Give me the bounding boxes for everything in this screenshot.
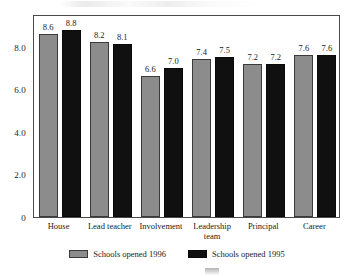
bar-1995[interactable]: 7.6 — [317, 55, 336, 217]
legend-label: Schools opened 1995 — [212, 250, 285, 259]
bar-1995[interactable]: 8.8 — [62, 30, 81, 217]
bar-group: 8.28.1 — [85, 16, 136, 217]
plot-inner: 8.68.88.28.16.67.07.47.57.27.27.67.6 — [34, 16, 339, 217]
bar-value-label: 7.6 — [322, 44, 333, 53]
bar-chart-figure: 02.04.06.08.0 8.68.88.28.16.67.07.47.57.… — [0, 0, 354, 277]
bar-pair: 7.47.5 — [188, 16, 239, 217]
bar-group: 6.67.0 — [136, 16, 187, 217]
bar-value-label: 8.2 — [94, 31, 105, 40]
plot-area: 8.68.88.28.16.67.07.47.57.27.27.67.6 — [33, 15, 340, 218]
black-swatch — [188, 250, 207, 258]
bar-value-label: 7.5 — [219, 46, 230, 55]
bar-value-label: 8.1 — [117, 33, 128, 42]
bar-pair: 7.27.2 — [239, 16, 290, 217]
bar-1995[interactable]: 8.1 — [113, 44, 132, 217]
x-axis-label: House — [33, 221, 84, 231]
bar-1996[interactable]: 7.4 — [192, 59, 211, 217]
bar-value-label: 7.2 — [270, 53, 281, 62]
x-axis-label: Lead teacher — [84, 221, 135, 231]
bar-group: 7.27.2 — [239, 16, 290, 217]
bar-1996[interactable]: 6.6 — [141, 76, 160, 217]
chart-legend: Schools opened 1996Schools opened 1995 — [0, 250, 354, 259]
x-axis-labels: HouseLead teacherInvolvementLeadership t… — [33, 221, 340, 251]
bar-value-label: 8.8 — [66, 19, 77, 28]
bar-pair: 8.28.1 — [85, 16, 136, 217]
bar-1996[interactable]: 7.6 — [294, 55, 313, 217]
x-axis-label: Leadership team — [187, 221, 238, 241]
y-tick-label: 6.0 — [14, 86, 26, 95]
y-tick-label: 2.0 — [14, 171, 26, 180]
bar-group: 7.67.6 — [290, 16, 341, 217]
bar-1995[interactable]: 7.5 — [215, 57, 234, 217]
bar-group: 8.68.8 — [34, 16, 85, 217]
legend-item[interactable]: Schools opened 1995 — [188, 250, 285, 259]
y-axis: 02.04.06.08.0 — [0, 0, 33, 277]
bar-1996[interactable]: 8.2 — [90, 42, 109, 217]
gray-swatch — [69, 250, 88, 258]
bar-1996[interactable]: 7.2 — [243, 64, 262, 217]
bar-1996[interactable]: 8.6 — [39, 34, 58, 217]
legend-label: Schools opened 1996 — [93, 250, 166, 259]
bar-value-label: 8.6 — [43, 23, 54, 32]
bar-1995[interactable]: 7.2 — [266, 64, 285, 217]
bar-value-label: 7.0 — [168, 57, 179, 66]
x-axis-label: Career — [289, 221, 340, 231]
x-axis-label: Principal — [238, 221, 289, 231]
x-axis-label: Involvement — [135, 221, 186, 231]
bar-pair: 8.68.8 — [34, 16, 85, 217]
y-tick-label: 4.0 — [14, 128, 26, 137]
bar-value-label: 7.6 — [299, 44, 310, 53]
legend-item[interactable]: Schools opened 1996 — [69, 250, 166, 259]
bar-pair: 7.67.6 — [290, 16, 341, 217]
scan-artifact-top — [60, 1, 260, 7]
y-tick-label: 8.0 — [14, 43, 26, 52]
bar-value-label: 7.2 — [247, 53, 258, 62]
bar-group: 7.47.5 — [188, 16, 239, 217]
scan-artifact-bottom — [205, 268, 219, 275]
bar-1995[interactable]: 7.0 — [164, 68, 183, 217]
bar-value-label: 7.4 — [196, 48, 207, 57]
bar-pair: 6.67.0 — [136, 16, 187, 217]
y-tick-label: 0 — [21, 214, 26, 223]
bar-value-label: 6.6 — [145, 65, 156, 74]
